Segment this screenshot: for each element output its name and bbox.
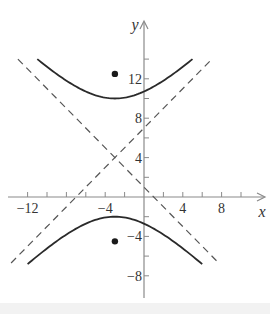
x-tick-label: −12: [17, 201, 39, 216]
hyperbola-figure: −12−4481284−4−8xy: [0, 0, 270, 314]
focus-point: [112, 238, 118, 244]
x-tick-label: 4: [179, 201, 186, 216]
x-tick-label: −4: [98, 201, 113, 216]
y-tick-label: 4: [135, 151, 142, 166]
hyperbola-branch: [37, 59, 192, 98]
y-axis-label: y: [129, 16, 139, 34]
y-tick-label: −8: [127, 269, 142, 284]
plot-area: −12−4481284−4−8xy: [0, 0, 270, 314]
x-axis-label: x: [257, 203, 265, 220]
x-tick-label: 8: [218, 201, 225, 216]
y-tick-label: −4: [127, 229, 142, 244]
y-tick-label: 8: [135, 111, 142, 126]
footer-band: [0, 303, 270, 314]
asymptote-line: [11, 61, 210, 263]
curves: [11, 59, 217, 264]
y-tick-label: 12: [128, 72, 142, 87]
focus-point: [112, 71, 118, 77]
asymptote-line: [18, 59, 217, 261]
